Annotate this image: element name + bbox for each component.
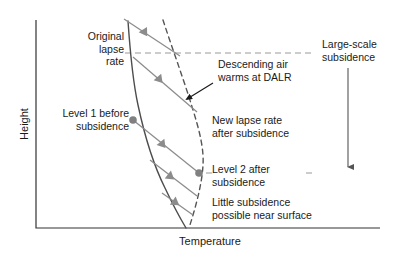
y-axis-title: Height	[18, 94, 30, 154]
x-axis-title: Temperature	[160, 235, 260, 247]
label-original-lapse-rate: Original lapse rate	[58, 30, 124, 68]
subsidence-inversion-diagram: Original lapse rate Descending air warms…	[0, 0, 402, 258]
transfer-line-2	[133, 57, 197, 112]
triangle-marker-5	[170, 197, 182, 210]
label-new-lapse-rate: New lapse rate after subsidence	[212, 114, 316, 139]
level-2-marker	[195, 169, 203, 177]
parcel-direction-markers	[139, 27, 183, 209]
transfer-line-1	[124, 19, 180, 56]
label-descending-air: Descending air warms at DALR	[218, 58, 318, 83]
descending-air-pointer-arrow	[187, 83, 213, 99]
triangle-marker-1	[139, 27, 152, 39]
original-lapse-rate-curve	[128, 21, 186, 228]
label-level-1-before-subsidence: Level 1 before subsidence	[41, 107, 129, 132]
label-little-subsidence: Little subsidence possible near surface	[212, 196, 342, 221]
level-1-marker	[129, 116, 137, 124]
label-level-2-after-subsidence: Level 2 after subsidence	[212, 163, 304, 188]
label-large-scale-subsidence: Large-scale subsidence	[322, 38, 400, 63]
transfer-line-3	[133, 120, 199, 173]
